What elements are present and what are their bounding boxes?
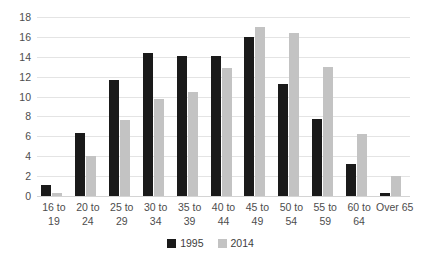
bar-2014-40-to-44[interactable]: [222, 68, 232, 196]
y-tick-label: 8: [0, 111, 31, 121]
bar-2014-60-to-64[interactable]: [357, 134, 367, 196]
bar-group: [105, 17, 139, 196]
legend-item-2014[interactable]: 2014: [218, 238, 254, 249]
legend-item-1995[interactable]: 1995: [167, 238, 203, 249]
bar-group: [139, 17, 173, 196]
bar-1995-20-to-24[interactable]: [75, 133, 85, 196]
bar-group: [37, 17, 71, 196]
bar-group: [342, 17, 376, 196]
bar-group: [240, 17, 274, 196]
bar-1995-60-to-64[interactable]: [346, 164, 356, 196]
y-tick-label: 0: [0, 191, 31, 201]
bar-2014-16-to-19[interactable]: [52, 193, 62, 196]
bar-1995-35-to-39[interactable]: [177, 56, 187, 196]
y-tick-label: 16: [0, 32, 31, 42]
x-tick-label: 16 to19: [37, 200, 71, 228]
bar-group: [71, 17, 105, 196]
x-tick-label: 25 to29: [105, 200, 139, 228]
bar-2014-30-to-34[interactable]: [154, 99, 164, 196]
bar-1995-55-to-59[interactable]: [312, 119, 322, 196]
bar-1995-16-to-19[interactable]: [41, 185, 51, 196]
y-tick-label: 14: [0, 52, 31, 62]
bar-2014-35-to-39[interactable]: [188, 92, 198, 196]
y-tick-label: 2: [0, 171, 31, 181]
bar-chart: 024681012141618 16 to1920 to2425 to2930 …: [0, 0, 421, 261]
x-tick-label: 55 to59: [308, 200, 342, 228]
legend-label: 1995: [180, 238, 203, 249]
bar-2014-55-to-59[interactable]: [323, 67, 333, 196]
bar-1995-50-to-54[interactable]: [278, 84, 288, 196]
legend-swatch-icon: [218, 239, 227, 248]
x-tick-label: 20 to24: [71, 200, 105, 228]
bar-2014-25-to-29[interactable]: [120, 120, 130, 196]
bars-layer: [37, 17, 410, 196]
bar-1995-25-to-29[interactable]: [109, 80, 119, 196]
x-tick-label: 30 to34: [139, 200, 173, 228]
bar-group: [274, 17, 308, 196]
x-tick-label: 50 to54: [274, 200, 308, 228]
y-tick-label: 12: [0, 72, 31, 82]
y-tick-label: 18: [0, 12, 31, 22]
bar-group: [308, 17, 342, 196]
x-tick-label: Over 65: [376, 200, 410, 214]
bar-group: [376, 17, 410, 196]
bar-2014-45-to-49[interactable]: [255, 27, 265, 196]
bar-1995-45-to-49[interactable]: [244, 37, 254, 196]
bar-2014-50-to-54[interactable]: [289, 33, 299, 196]
chart-legend: 19952014: [0, 238, 421, 249]
x-tick-label: 60 to64: [342, 200, 376, 228]
gridline: [37, 196, 410, 197]
y-tick-label: 4: [0, 151, 31, 161]
bar-2014-over-65[interactable]: [391, 176, 401, 196]
bar-group: [207, 17, 241, 196]
y-axis: 024681012141618: [0, 17, 31, 196]
x-tick-label: 35 to39: [173, 200, 207, 228]
y-tick-label: 10: [0, 92, 31, 102]
bar-2014-20-to-24[interactable]: [86, 156, 96, 196]
x-axis: 16 to1920 to2425 to2930 to3435 to3940 to…: [37, 200, 410, 234]
bar-group: [173, 17, 207, 196]
bar-1995-40-to-44[interactable]: [211, 56, 221, 196]
legend-swatch-icon: [167, 239, 176, 248]
legend-label: 2014: [231, 238, 254, 249]
bar-1995-over-65[interactable]: [380, 193, 390, 196]
x-tick-label: 40 to44: [207, 200, 241, 228]
x-tick-label: 45 to49: [240, 200, 274, 228]
bar-1995-30-to-34[interactable]: [143, 53, 153, 196]
y-tick-label: 6: [0, 131, 31, 141]
